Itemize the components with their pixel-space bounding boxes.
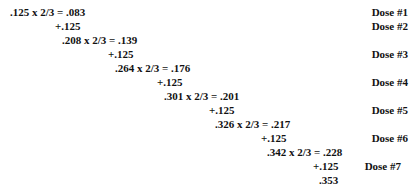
dose-label: Dose #4 xyxy=(372,76,408,88)
dose-label: Dose #2 xyxy=(372,20,408,32)
calc-line: .342 x 2/3 = .228 xyxy=(267,146,342,158)
calc-line: .208 x 2/3 = .139 xyxy=(62,34,137,46)
calc-line: +.125 xyxy=(209,104,235,116)
calc-line: .301 x 2/3 = .201 xyxy=(164,90,239,102)
calc-line: .326 x 2/3 = .217 xyxy=(215,118,290,130)
dose-label: Dose #6 xyxy=(372,132,408,144)
dose-label: Dose #7 xyxy=(365,160,401,172)
calc-line: +.125 xyxy=(157,76,183,88)
dose-label: Dose #3 xyxy=(372,48,408,60)
calc-line: +.125 xyxy=(108,48,134,60)
calc-line: .353 xyxy=(319,174,338,186)
calc-line: +.125 xyxy=(313,160,339,172)
calc-line: +.125 xyxy=(261,132,287,144)
calc-line: +.125 xyxy=(55,20,81,32)
dose-label: Dose #1 xyxy=(372,6,408,18)
dose-label: Dose #5 xyxy=(372,104,408,116)
calc-line: .264 x 2/3 = .176 xyxy=(115,62,190,74)
calc-line: .125 x 2/3 = .083 xyxy=(10,6,85,18)
